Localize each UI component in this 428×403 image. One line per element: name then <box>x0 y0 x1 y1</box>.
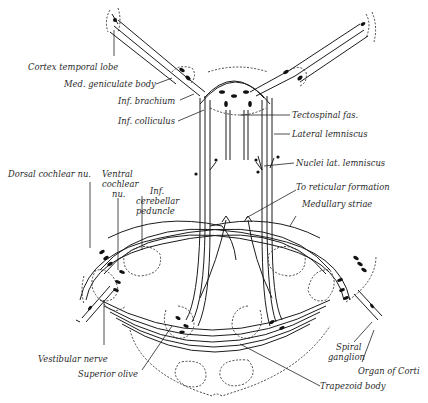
label-dorsal-cochlear-nu: Dorsal cochlear nu. <box>7 169 91 179</box>
label-inf-cerebellar-peduncle-line3: peduncle <box>136 206 175 216</box>
trapezoid-body <box>100 300 330 352</box>
cortex-left <box>106 8 120 32</box>
label-med-geniculate-body: Med. geniculate body <box>63 79 156 89</box>
label-nuclei-lat-lemniscus: Nuclei lat. lemniscus <box>295 158 386 168</box>
label-superior-olive: Superior olive <box>78 369 138 379</box>
label-inf-brachium: Inf. brachium <box>117 96 175 106</box>
label-vestibular-nerve: Vestibular nerve <box>38 354 108 364</box>
lemniscus-tracts <box>186 96 282 326</box>
cochlear-nuclei-right <box>268 246 367 300</box>
medulla-outline <box>130 326 330 396</box>
cochlear-nerve-left <box>76 276 114 322</box>
cochlear-nerve-right <box>346 256 382 320</box>
label-medullary-striae: Medullary striae <box>301 199 372 209</box>
label-lateral-lemniscus: Lateral lemniscus <box>291 129 368 139</box>
label-trapezoid-body: Trapezoid body <box>320 381 386 391</box>
label-cortex-temporal-lobe: Cortex temporal lobe <box>28 62 118 72</box>
label-spiral-ganglion-line1: Spiral <box>336 342 362 352</box>
label-tectospinal-fas: Tectospinal fas. <box>292 110 358 120</box>
label-spiral-ganglion-line2: ganglion <box>328 352 365 362</box>
label-organ-of-corti: Organ of Corti <box>358 366 420 376</box>
label-ventral-cochlear-nu-line2: cochlear <box>102 179 139 189</box>
label-inf-cerebellar-peduncle-line2: cerebellar <box>136 196 180 206</box>
label-ventral-cochlear-nu-line3: nu. <box>112 189 125 199</box>
cortex-right <box>360 12 376 42</box>
label-ventral-cochlear-nu-line1: Ventral <box>102 169 133 179</box>
label-to-reticular-formation: To reticular formation <box>296 182 390 192</box>
label-inf-colliculus: Inf. colliculus <box>117 116 176 126</box>
auditory-pathway-diagram: Cortex temporal lobe Med. geniculate bod… <box>0 0 428 403</box>
med-geniculate-bodies <box>172 67 306 86</box>
label-inf-cerebellar-peduncle-line1: Inf. <box>149 186 164 196</box>
